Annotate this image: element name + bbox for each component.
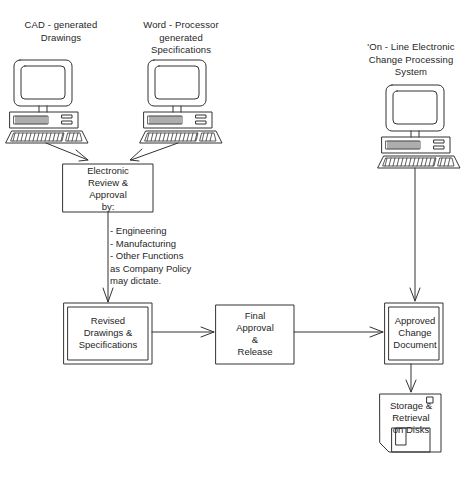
node-label-criteria: - Engineering - Manufacturing - Other Fu… (110, 225, 235, 288)
flowchart-diagram: CAD - generated Drawings Word - Processo… (0, 0, 476, 485)
edge-approved-to-storage (406, 364, 416, 392)
node-label-final-approval: Final Approval & Release (216, 306, 294, 362)
edge-final-to-approved (294, 327, 383, 337)
computer-icon-cad (6, 60, 88, 143)
node-label-electronic-review: Electronic Review & Approval by: (63, 166, 153, 212)
computer-icon-word-processor (140, 60, 222, 143)
source-label-online-system: 'On - Line Electronic Change Processing … (352, 41, 470, 79)
edge-online-to-approved (410, 168, 420, 301)
node-label-storage-retrieval: Storage & Retrieval on Disks (382, 399, 440, 437)
node-label-approved-change-document: Approved Change Document (387, 305, 443, 361)
computer-icon-online-system (378, 85, 460, 168)
edge-cad-to-review (46, 143, 88, 161)
node-label-revised-drawings: Revised Drawings & Specifications (66, 305, 150, 361)
edge-revised-to-final (152, 327, 214, 337)
edge-word-to-review (130, 143, 178, 161)
source-label-cad: CAD - generated Drawings (2, 19, 120, 44)
source-label-word-processor: Word - Processor generated Specification… (122, 19, 240, 57)
